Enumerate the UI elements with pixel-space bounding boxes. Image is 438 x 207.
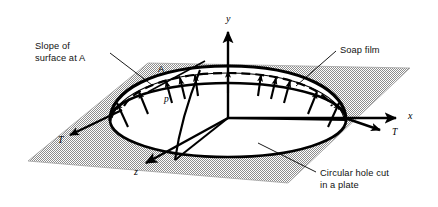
tension-label-right: T: [392, 127, 398, 137]
label-hole-line1: Circular hole cut: [320, 168, 389, 178]
z-axis-label: z: [133, 166, 138, 177]
label-slope-line1: Slope of: [35, 41, 70, 51]
pressure-p-label: p: [163, 94, 169, 104]
label-soap-film: Soap film: [340, 45, 380, 55]
label-slope-line2: surface at A: [35, 53, 86, 63]
point-a-label: A: [158, 64, 164, 74]
tension-label-left: T: [58, 135, 64, 145]
soap-film-figure: Slope of surface at A Soap film Circular…: [0, 0, 438, 207]
label-hole-line2: in a plate: [320, 180, 359, 190]
x-axis-label: x: [407, 110, 413, 121]
y-axis-label: y: [225, 13, 231, 24]
diagram-canvas: Slope of surface at A Soap film Circular…: [0, 0, 438, 207]
